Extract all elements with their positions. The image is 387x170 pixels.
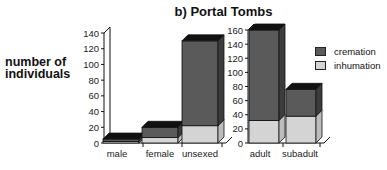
legend-label: inhumation: [334, 60, 380, 71]
y-tick-label: 40: [232, 109, 243, 120]
legend-label: cremation: [334, 46, 376, 57]
bar-unsexed-cremation: [182, 41, 218, 126]
bar-top: [142, 121, 184, 127]
bar-adult-inhumation: [249, 120, 279, 143]
y-axis-line: [104, 27, 110, 143]
legend-item-cremation: cremation: [315, 44, 380, 58]
x-tick-label: adult: [250, 148, 271, 159]
x-tick-label: subadult: [282, 148, 318, 159]
bar-top: [249, 24, 285, 30]
y-tick-label: 0: [94, 138, 99, 149]
y-tick-label: 120: [227, 53, 243, 64]
legend-item-inhumation: inhumation: [315, 58, 380, 72]
y-tick-label: 20: [232, 123, 243, 134]
bar-top: [182, 35, 224, 41]
bar-subadult-inhumation: [286, 116, 316, 143]
inhumation-swatch-icon: [315, 61, 326, 70]
bar-side: [279, 24, 285, 120]
y-tick-label: 80: [88, 75, 99, 86]
x-tick-label: unsexed: [182, 148, 218, 159]
stacked-bar-chart: 020406080100120140malefemaleunsexed02040…: [0, 0, 387, 170]
bar-side: [218, 35, 224, 126]
x-tick-label: male: [107, 148, 128, 159]
y-tick-label: 20: [88, 122, 99, 133]
y-tick-label: 100: [227, 67, 243, 78]
cremation-swatch-icon: [315, 47, 326, 56]
bar-top: [103, 133, 145, 139]
y-tick-label: 140: [83, 28, 99, 39]
bar-subadult-cremation: [286, 89, 316, 116]
x-tick-label: female: [146, 148, 175, 159]
y-tick-label: 120: [83, 43, 99, 54]
bar-female-inhumation: [142, 138, 178, 144]
y-tick-label: 60: [88, 90, 99, 101]
y-tick-label: 0: [238, 138, 243, 149]
y-tick-label: 40: [88, 106, 99, 117]
bar-top: [286, 83, 322, 89]
y-tick-label: 160: [227, 25, 243, 36]
y-tick-label: 100: [83, 59, 99, 70]
bar-unsexed-inhumation: [182, 126, 218, 143]
y-tick-label: 60: [232, 95, 243, 106]
legend: cremation inhumation: [315, 44, 380, 72]
y-tick-label: 80: [232, 81, 243, 92]
bar-female-cremation: [142, 127, 178, 137]
y-tick-label: 140: [227, 39, 243, 50]
bar-adult-cremation: [249, 30, 279, 120]
